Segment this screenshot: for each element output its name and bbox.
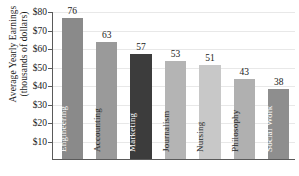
bar-group: Philosophy43 — [227, 12, 261, 159]
y-tick-label: $60 — [33, 44, 47, 54]
bar-series: Engineering76Accounting63Marketing57Jour… — [53, 12, 295, 159]
bar-category-label: Nursing — [195, 122, 205, 152]
bar-category-label: Journalism — [161, 111, 171, 153]
bar-value-label: 76 — [62, 6, 83, 16]
bar-category-label: Engineering — [58, 106, 68, 152]
bar: Nursing — [199, 65, 220, 159]
bar-category-label: Social Work — [264, 105, 274, 152]
bar: Engineering — [62, 18, 83, 159]
y-tick-label: $50 — [33, 63, 47, 73]
bar-group: Accounting63 — [89, 12, 123, 159]
plot-area: $10$20$30$40$50$60$70$80 Engineering76Ac… — [52, 12, 295, 160]
bar-value-label: 53 — [165, 49, 186, 59]
y-axis-title: Average Yearly Earnings (thousands of do… — [6, 0, 32, 119]
x-axis-line — [52, 159, 295, 160]
y-tick-label: $70 — [33, 26, 47, 36]
bar-chart: Average Yearly Earnings (thousands of do… — [0, 0, 299, 176]
y-tick-label: $30 — [33, 100, 47, 110]
bar: Philosophy — [234, 79, 255, 159]
bar-category-label: Accounting — [92, 108, 102, 152]
bar-value-label: 43 — [234, 67, 255, 77]
bar-group: Marketing57 — [124, 12, 158, 159]
bar: Journalism — [165, 61, 186, 159]
y-tick-label: $80 — [33, 7, 47, 17]
y-axis-title-line-1: Average Yearly Earnings — [8, 6, 19, 103]
y-tick-label: $40 — [33, 81, 47, 91]
bar-category-label: Marketing — [127, 113, 137, 152]
bar-group: Engineering76 — [55, 12, 89, 159]
bar-value-label: 57 — [130, 42, 151, 52]
bar-group: Journalism53 — [158, 12, 192, 159]
bar-category-label: Philosophy — [230, 109, 240, 152]
y-tick-label: $20 — [33, 118, 47, 128]
bar-group: Social Work38 — [262, 12, 296, 159]
bar-value-label: 63 — [96, 30, 117, 40]
y-axis-title-line-2: (thousands of dollars) — [19, 11, 30, 96]
bar: Social Work — [268, 89, 289, 159]
bar-group: Nursing51 — [193, 12, 227, 159]
bar-value-label: 38 — [268, 77, 289, 87]
bar: Accounting — [96, 42, 117, 159]
bar-value-label: 51 — [199, 53, 220, 63]
y-tick-label: $10 — [33, 137, 47, 147]
bar: Marketing — [130, 54, 151, 159]
